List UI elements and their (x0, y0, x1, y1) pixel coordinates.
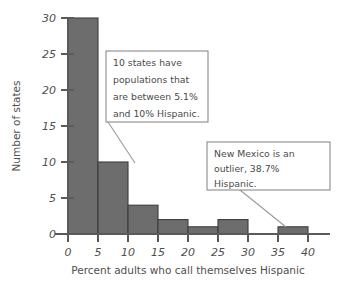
x-axis-title: Percent adults who call themselves Hispa… (71, 264, 305, 276)
x-tick-label-20: 20 (181, 246, 195, 259)
y-tick-label-5: 5 (49, 192, 56, 205)
callout-new-mexico-line-1: New Mexico is an (214, 148, 295, 159)
callout-new-mexico[interactable]: New Mexico is an outlier, 38.7% Hispanic… (207, 142, 330, 227)
y-tick-label-30: 30 (42, 12, 56, 25)
bar-20-25[interactable] (188, 227, 218, 234)
x-tick-label-25: 25 (211, 246, 225, 259)
x-tick-label-35: 35 (271, 246, 285, 259)
callout-ten-states[interactable]: 10 states have populations that are betw… (106, 51, 208, 163)
y-tick-label-20: 20 (42, 84, 56, 97)
callout-ten-states-line-3: are between 5.1% (113, 91, 198, 102)
x-tick-label-0: 0 (65, 246, 72, 259)
callout-ten-states-line-4: and 10% Hispanic. (113, 108, 200, 119)
y-tick-label-0: 0 (49, 228, 56, 241)
bar-25-30[interactable] (218, 220, 248, 234)
bars-group (68, 18, 308, 234)
bar-5-10[interactable] (98, 162, 128, 234)
bar-35-40[interactable] (278, 227, 308, 234)
callout-ten-states-line-1: 10 states have (113, 57, 182, 68)
bar-10-15[interactable] (128, 205, 158, 234)
y-axis-title: Number of states (10, 80, 22, 171)
x-tick-label-30: 30 (241, 246, 255, 259)
x-tick-label-40: 40 (301, 246, 315, 259)
bar-15-20[interactable] (158, 220, 188, 234)
x-tick-label-10: 10 (121, 246, 135, 259)
x-tick-label-15: 15 (151, 246, 165, 259)
y-tick-label-15: 15 (42, 120, 56, 133)
y-tick-label-10: 10 (42, 156, 56, 169)
y-tick-label-25: 25 (42, 48, 56, 61)
y-axis: 30 25 20 15 10 5 0 Number of states (10, 12, 74, 241)
histogram-figure: 30 25 20 15 10 5 0 Number of states 0 5 … (0, 0, 339, 285)
callout-new-mexico-line-3: Hispanic. (214, 178, 257, 189)
x-tick-label-5: 5 (95, 246, 102, 259)
callout-ten-states-line-2: populations that (113, 74, 190, 85)
callout-ten-states-leader (108, 122, 135, 163)
callout-new-mexico-line-2: outlier, 38.7% (214, 163, 280, 174)
x-axis: 0 5 10 15 20 25 30 35 40 Percent adults … (55, 234, 330, 276)
